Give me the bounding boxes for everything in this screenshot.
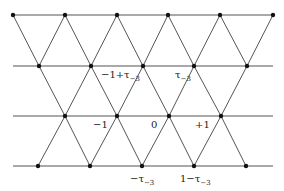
- label-plus-one: +1: [195, 119, 210, 130]
- diagonal-line: [39, 66, 65, 116]
- diagonal-line: [65, 116, 90, 166]
- lattice-point: [167, 114, 171, 118]
- diagonal-line: [65, 15, 91, 66]
- diagonal-line: [143, 66, 169, 116]
- diagonal-line: [39, 15, 65, 66]
- diagonal-line: [117, 116, 142, 166]
- diagonal-line: [91, 15, 117, 66]
- lattice-point: [115, 13, 119, 17]
- label-zero: 0: [151, 119, 157, 130]
- label-one-minus-tau: 1−τ−3: [180, 173, 211, 187]
- diagonal-line: [168, 15, 194, 66]
- label-minus-tau: −τ−3: [130, 173, 154, 187]
- lattice-point: [11, 13, 15, 17]
- diagonal-line: [169, 66, 194, 116]
- diagonal-line: [194, 66, 221, 116]
- label-minus-one-plus-tau: −1+τ−3: [101, 69, 140, 83]
- lattice-point: [140, 164, 144, 168]
- lattice-point: [141, 64, 145, 68]
- diagonal-line: [169, 116, 194, 166]
- lattice-point: [37, 64, 41, 68]
- lattice-point: [36, 164, 40, 168]
- lattice-point: [63, 114, 67, 118]
- lattice-point: [166, 13, 170, 17]
- lattice-point: [271, 13, 275, 17]
- lattice-point: [63, 13, 67, 17]
- lattice-point: [115, 114, 119, 118]
- diagonal-line: [38, 116, 65, 166]
- lattice-point: [192, 64, 196, 68]
- lattice-point: [192, 164, 196, 168]
- diagonal-line: [221, 66, 247, 116]
- lattice-point: [219, 114, 223, 118]
- diagonal-line: [13, 15, 39, 66]
- triangular-lattice-diagram: −1+τ−3τ−3−10+1−τ−31−τ−3: [0, 0, 284, 191]
- diagonal-line: [65, 66, 91, 116]
- diagonal-line: [117, 15, 143, 66]
- diagonal-line: [221, 116, 246, 166]
- lattice-point: [89, 64, 93, 68]
- label-tau: τ−3: [175, 69, 191, 83]
- lattice-point: [218, 13, 222, 17]
- lattice-point: [244, 164, 248, 168]
- diagonal-line: [247, 15, 273, 66]
- diagonal-line: [143, 15, 168, 66]
- diagonal-lines: [13, 15, 273, 166]
- lattice-point: [245, 64, 249, 68]
- lattice-point: [88, 164, 92, 168]
- label-minus-one: −1: [93, 119, 108, 130]
- diagonal-line: [220, 15, 247, 66]
- diagonal-line: [194, 15, 220, 66]
